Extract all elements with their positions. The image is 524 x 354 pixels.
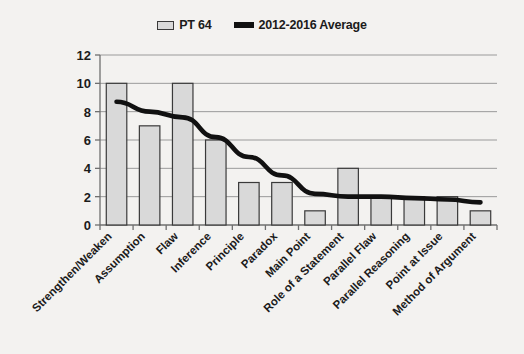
svg-text:6: 6 bbox=[84, 133, 91, 148]
x-axis-category-labels: Strengthen/WeakenAssumptionFlawInference… bbox=[30, 230, 478, 318]
line-series-average bbox=[117, 102, 481, 203]
chart-plot: 121086420 Strengthen/WeakenAssumptionFla… bbox=[0, 0, 524, 354]
bar-series-pt64 bbox=[106, 83, 490, 225]
svg-text:8: 8 bbox=[84, 105, 91, 120]
svg-text:2: 2 bbox=[84, 190, 91, 205]
y-axis-tick-labels: 121086420 bbox=[77, 48, 92, 233]
x-axis-ticks bbox=[100, 225, 497, 230]
svg-text:0: 0 bbox=[84, 218, 91, 233]
chart-container: PT 64 2012-2016 Average 121086420 Streng… bbox=[0, 0, 524, 354]
svg-text:12: 12 bbox=[77, 48, 91, 63]
svg-text:10: 10 bbox=[77, 76, 91, 91]
svg-text:4: 4 bbox=[84, 161, 92, 176]
svg-text:Flaw: Flaw bbox=[154, 230, 181, 257]
